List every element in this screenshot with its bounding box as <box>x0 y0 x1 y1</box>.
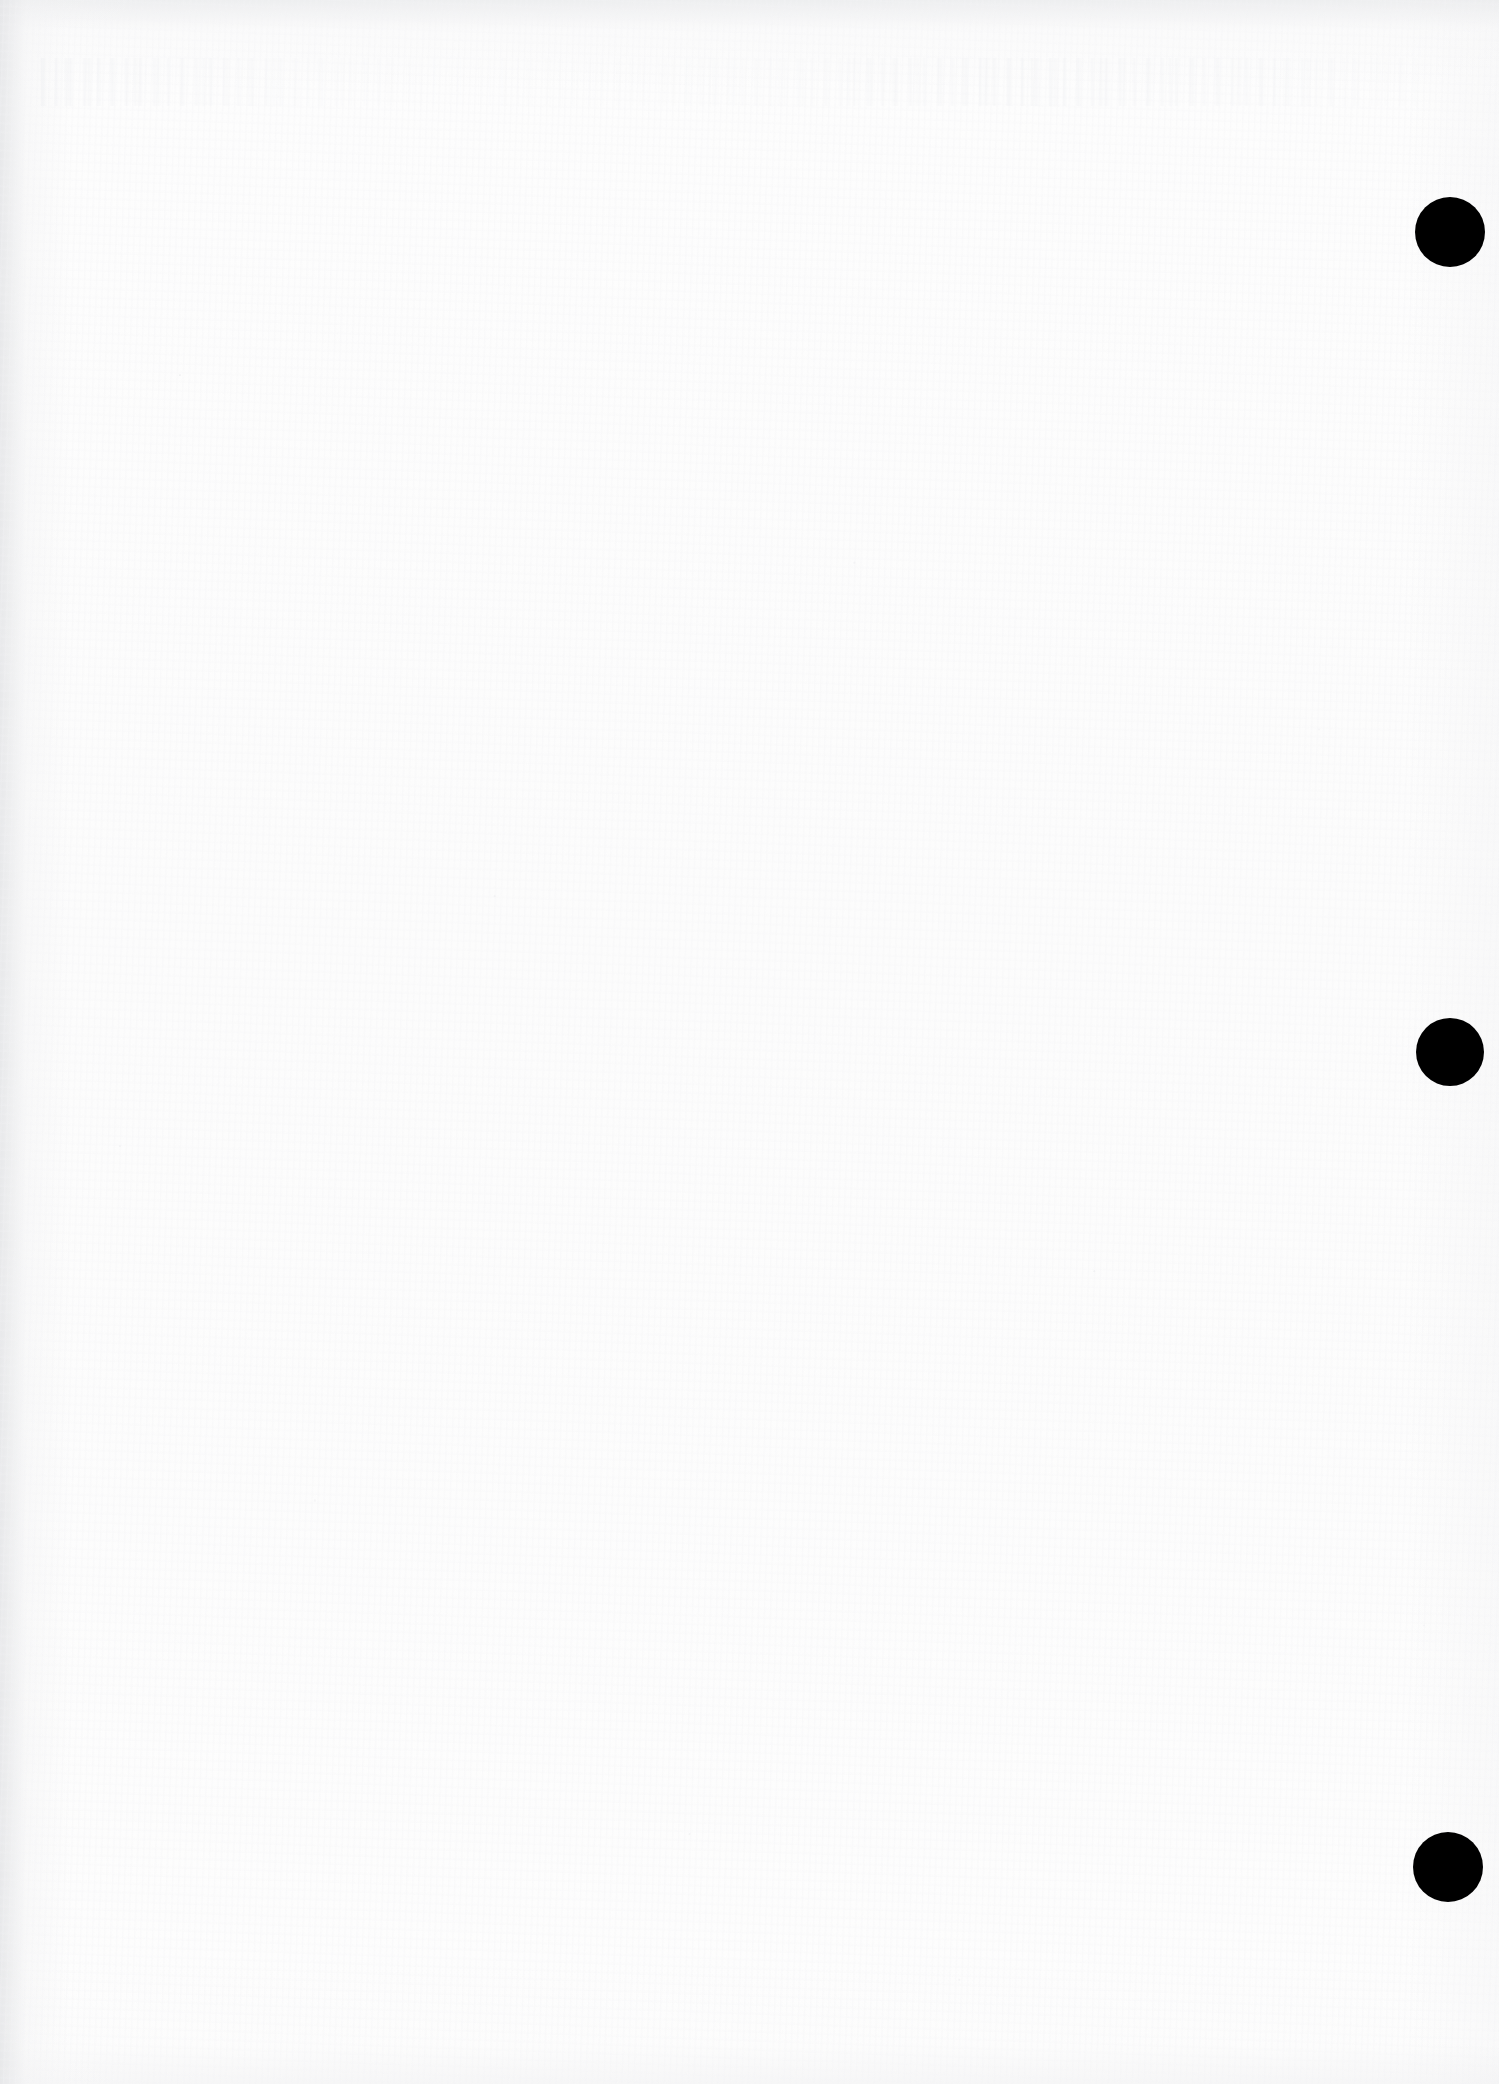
bleed-through-ghost-text <box>40 58 1420 106</box>
punch-mark-top <box>1415 197 1485 267</box>
scanned-page <box>0 0 1499 2084</box>
paper-speckles <box>0 0 1499 2084</box>
punch-mark-bottom <box>1413 1832 1483 1902</box>
punch-mark-middle <box>1416 1018 1484 1086</box>
paper-texture <box>0 0 1499 2084</box>
